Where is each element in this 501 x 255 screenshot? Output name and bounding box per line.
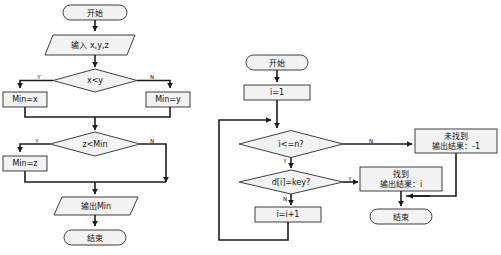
left-assign-min-z-label: Min=z [12, 159, 37, 168]
left-input-label: 输入 x,y,z [71, 40, 108, 50]
left-decision-zmin-label: z<Min [82, 140, 107, 149]
right-decision-match-label: d[i]=key? [272, 178, 311, 187]
left-d1-yes-label: Y [36, 74, 41, 80]
left-d1-no-label: N [150, 74, 154, 80]
right-start-label: 开始 [269, 58, 285, 68]
left-assign-min-y-label: Min=y [155, 95, 181, 104]
left-edge-d1-yes [20, 81, 53, 89]
right-found-line1: 找到 [393, 169, 409, 179]
left-merge-bar-2 [25, 171, 166, 182]
right-init-label: i=1 [270, 88, 284, 97]
right-match-yes-label: Y [347, 176, 352, 182]
left-edge-d2-yes [20, 144, 50, 152]
left-start-label: 开始 [87, 8, 103, 18]
right-not-found-line1: 未找到 [444, 131, 468, 141]
right-end-label: 结束 [393, 212, 409, 222]
left-assign-min-x-label: Min=x [12, 95, 38, 104]
left-decision-xy-label: x<y [87, 76, 103, 85]
left-merge-bar-1 [25, 107, 170, 117]
left-end-label: 结束 [87, 233, 103, 243]
left-d2-yes-label: Y [34, 138, 39, 144]
flowchart-canvas: 开始 输入 x,y,z x<y Y N Min=x Min=y [0, 0, 501, 255]
right-not-found-line2: 输出结果：-1 [432, 141, 480, 151]
flowchart-figure: 开始 输入 x,y,z x<y Y N Min=x Min=y [0, 0, 501, 255]
left-output-label: 输出Min [81, 201, 111, 211]
right-increment-label: i=i+1 [277, 210, 300, 219]
right-found-line2: 输出结果：i [380, 179, 422, 189]
left-edge-d2-no [140, 144, 166, 182]
right-match-no-label: N [283, 196, 287, 202]
right-bound-no-label: N [369, 138, 373, 144]
left-edge-d1-no [137, 81, 170, 89]
right-bound-yes-label: Y [282, 158, 287, 164]
right-decision-bound-label: i<=n? [279, 140, 304, 149]
left-flowchart-group: 开始 输入 x,y,z x<y Y N Min=x Min=y [3, 5, 190, 245]
right-flowchart-group: 开始 i=1 i<=n? N Y d[i]=key? Y [219, 55, 497, 240]
left-d2-no-label: N [150, 138, 154, 144]
